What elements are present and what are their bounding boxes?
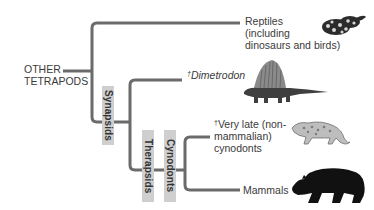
late-cynodonts-line2: mammalian) bbox=[214, 130, 286, 142]
dimetrodon-label: †Dimetrodon bbox=[187, 69, 245, 81]
phylogenetic-tree: OTHER TETRAPODS Reptiles (including dino… bbox=[0, 0, 374, 210]
late-cynodonts-label: †Very late (non- mammalian) cynodonts bbox=[214, 118, 286, 154]
clade-cynodonts: Cynodonts bbox=[164, 130, 176, 202]
extinct-dagger: † bbox=[214, 119, 218, 126]
clade-therapsids: Therapsids bbox=[142, 130, 154, 202]
clade-synapsids: Synapsids bbox=[102, 86, 114, 145]
synapsids-label: Synapsids bbox=[103, 90, 114, 141]
late-cynodonts-line1: Very late (non- bbox=[218, 118, 286, 130]
cynodonts-label: Cynodonts bbox=[165, 139, 176, 192]
therapsids-label: Therapsids bbox=[143, 139, 154, 193]
mammals-label: Mammals bbox=[243, 184, 289, 196]
reptiles-line3: dinosaurs and birds) bbox=[245, 39, 340, 51]
mammals-name: Mammals bbox=[243, 184, 289, 196]
root-label: OTHER TETRAPODS bbox=[24, 63, 88, 87]
root-label-line2: TETRAPODS bbox=[24, 75, 88, 87]
dimetrodon-icon bbox=[240, 58, 330, 104]
bear-icon bbox=[288, 163, 368, 205]
snake-icon bbox=[318, 12, 368, 38]
cynodont-icon bbox=[288, 118, 350, 148]
root-label-line1: OTHER bbox=[24, 63, 88, 75]
dimetrodon-name: Dimetrodon bbox=[191, 69, 245, 81]
late-cynodonts-line3: cynodonts bbox=[214, 142, 286, 154]
extinct-dagger: † bbox=[187, 70, 191, 77]
